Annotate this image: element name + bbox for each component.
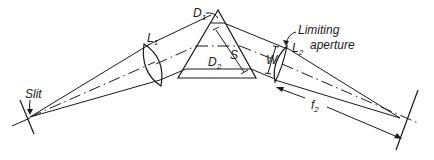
label-limiting: Limiting [298, 23, 340, 37]
label-f2: f2 [311, 98, 319, 114]
s-tick-top [213, 27, 219, 30]
label-l2: L2 [292, 41, 304, 57]
lens-l1 [143, 44, 162, 86]
label-slit: Slit [25, 87, 42, 101]
label-d1: D1 [193, 6, 206, 22]
label-l1: L1 [147, 31, 158, 47]
label-s: S [230, 48, 238, 62]
limiting-aperture-arrowhead [283, 40, 289, 46]
label-aperture: aperture [310, 38, 355, 52]
ray-upper-in [30, 44, 150, 117]
spectrometer-diagram: Slit L1 D1 D2 S W L2 Limiting aperture f… [0, 0, 434, 160]
slit-arrowhead [27, 109, 33, 115]
f2-arrow-left [276, 87, 284, 92]
ray-lower-focus [275, 80, 400, 118]
focal-plane [396, 90, 418, 150]
optical-axis-out [282, 64, 418, 123]
slit-plane [20, 100, 34, 134]
optical-axis-in [30, 62, 155, 117]
ray-lower-in [30, 80, 160, 117]
slit-axis-stub [12, 118, 30, 126]
beam-axis-collimated [156, 46, 196, 64]
w-tick-bottom [265, 73, 271, 74]
beam-upper-out [224, 23, 285, 48]
label-w: W [266, 53, 279, 67]
w-tick-top [273, 46, 279, 47]
label-d2: D2 [208, 55, 222, 71]
s-tick-bottom [241, 70, 248, 74]
